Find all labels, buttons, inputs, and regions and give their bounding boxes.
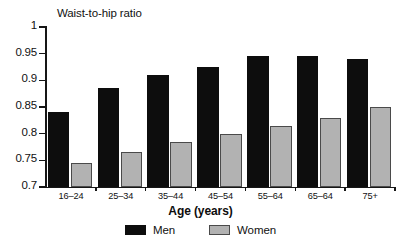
bar-group <box>98 27 143 187</box>
y-tick-label: 0.8 <box>22 126 37 138</box>
x-tick-label: 45–54 <box>196 191 246 201</box>
bar-women-45–54 <box>220 134 242 187</box>
x-axis-title: Age (years) <box>0 204 401 218</box>
bar-women-55–64 <box>270 126 292 187</box>
bar-group <box>247 27 292 187</box>
bar-women-16–24 <box>71 163 93 187</box>
bar-men-35–44 <box>147 75 169 187</box>
bar-men-75+ <box>347 59 369 187</box>
bar-men-16–24 <box>48 112 70 187</box>
legend-swatch-men-icon <box>125 225 146 235</box>
y-tick-label: 0.95 <box>15 46 37 58</box>
bar-group <box>147 27 192 187</box>
y-tick-label: 0.7 <box>22 179 37 191</box>
x-tick-label: 25–34 <box>96 191 146 201</box>
x-tick-label: 16–24 <box>46 191 96 201</box>
x-tick-label: 55–64 <box>245 191 295 201</box>
y-tick-mark <box>39 133 46 135</box>
y-tick-label: 0.9 <box>22 72 37 84</box>
bar-group <box>48 27 93 187</box>
plot-area <box>46 27 395 187</box>
bar-men-65–64 <box>297 56 319 187</box>
y-tick-mark <box>39 26 46 28</box>
y-tick-mark <box>39 186 46 188</box>
bar-men-25–34 <box>98 88 120 187</box>
bar-group <box>297 27 342 187</box>
bar-group <box>347 27 392 187</box>
waist-to-hip-ratio-bar-chart: Waist-to-hip ratio 0.70.750.80.850.90.95… <box>0 0 401 247</box>
legend-label-men: Men <box>153 224 175 236</box>
y-tick-mark <box>39 53 46 55</box>
bar-women-65–64 <box>320 118 342 187</box>
bar-women-75+ <box>370 107 392 187</box>
x-tick-label: 35–44 <box>146 191 196 201</box>
y-tick-mark <box>39 160 46 162</box>
legend-item-women: Women <box>209 224 276 236</box>
bar-women-35–44 <box>170 142 192 187</box>
x-tick-label: 75+ <box>345 191 395 201</box>
y-tick-mark <box>39 80 46 82</box>
bar-men-55–64 <box>247 56 269 187</box>
x-tick-label: 65–64 <box>295 191 345 201</box>
bar-men-45–54 <box>197 67 219 187</box>
y-tick-label: 1 <box>31 19 37 31</box>
y-tick-label: 0.75 <box>15 152 37 164</box>
chart-title: Waist-to-hip ratio <box>57 7 142 19</box>
bar-women-25–34 <box>121 152 143 187</box>
bar-group <box>197 27 242 187</box>
chart-legend: Men Women <box>0 224 401 236</box>
legend-item-men: Men <box>125 224 175 236</box>
legend-swatch-women-icon <box>209 225 230 235</box>
y-tick-mark <box>39 106 46 108</box>
legend-label-women: Women <box>237 224 276 236</box>
y-tick-label: 0.85 <box>15 99 37 111</box>
